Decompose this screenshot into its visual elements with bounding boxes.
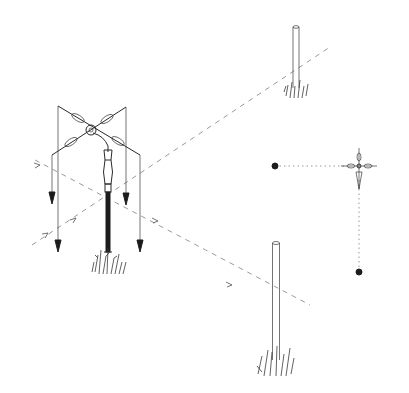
sight-line-diagonal-up — [32, 47, 330, 245]
plumb-bob-icon — [55, 240, 61, 252]
arrow-tick-icon — [34, 163, 40, 168]
grass-tuft — [284, 80, 308, 98]
groma-instrument — [49, 106, 143, 274]
plumb-bob-icon — [137, 240, 143, 252]
plan-view — [272, 148, 377, 275]
sight-lines — [32, 47, 330, 305]
plumb-bob-icon — [123, 193, 129, 205]
sighting-post-far — [284, 26, 308, 98]
sight-line-diagonal-down — [35, 160, 310, 305]
groma-arm — [58, 106, 140, 155]
illustration-canvas — [0, 0, 409, 393]
arrow-tick-icon — [226, 282, 232, 287]
groma-diagram — [0, 0, 409, 393]
groma-pole — [106, 192, 110, 252]
grass-tuft — [257, 346, 294, 376]
survey-marker-icon — [272, 163, 278, 169]
plumb-bob-icon — [49, 192, 55, 204]
groma-plan-cross-icon — [341, 148, 377, 189]
sighting-post-near — [257, 242, 294, 377]
survey-marker-icon — [356, 269, 362, 275]
arrow-tick-icon — [70, 218, 76, 223]
